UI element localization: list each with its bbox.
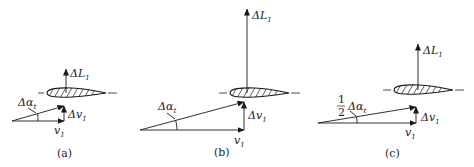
panel-c: ΔL1 1 2 Δαt Δv1 v1 (c) bbox=[318, 44, 464, 160]
panel-caption: (a) bbox=[57, 147, 72, 160]
angle-label: 1 2 Δαt bbox=[337, 93, 366, 119]
lift-label: ΔL1 bbox=[251, 9, 272, 24]
velocity-label: v1 bbox=[54, 124, 65, 139]
fraction-denominator: 2 bbox=[338, 106, 345, 119]
angle-symbol: Δαt bbox=[347, 100, 366, 115]
resultant-arrow bbox=[140, 102, 244, 130]
angle-arc bbox=[38, 114, 39, 121]
airfoil bbox=[230, 86, 289, 98]
airfoil bbox=[47, 86, 106, 98]
airfoil-lift-diagram: ΔL1 Δαt Δv1 v1 (a) ΔL1 Δαt Δ bbox=[0, 0, 474, 167]
panel-caption: (b) bbox=[214, 146, 230, 159]
velocity-label: v1 bbox=[234, 134, 245, 149]
fraction-numerator: 1 bbox=[338, 93, 345, 106]
delta-v-label: Δv1 bbox=[420, 111, 440, 126]
lift-label: ΔL1 bbox=[422, 44, 443, 59]
angle-label: Δαt bbox=[17, 96, 36, 111]
velocity-label: v1 bbox=[405, 126, 416, 141]
angle-label: Δαt bbox=[157, 100, 176, 115]
lift-label: ΔL1 bbox=[69, 67, 90, 82]
angle-arc bbox=[357, 117, 358, 123]
airfoil bbox=[394, 83, 453, 95]
angle-arc bbox=[176, 120, 177, 130]
panel-a: ΔL1 Δαt Δv1 v1 (a) bbox=[12, 67, 117, 160]
delta-v-label: Δv1 bbox=[247, 109, 267, 124]
resultant-arrow bbox=[318, 107, 416, 123]
panel-b: ΔL1 Δαt Δv1 v1 (b) bbox=[140, 9, 300, 159]
panel-caption: (c) bbox=[385, 147, 400, 160]
delta-v-label: Δv1 bbox=[67, 108, 87, 123]
